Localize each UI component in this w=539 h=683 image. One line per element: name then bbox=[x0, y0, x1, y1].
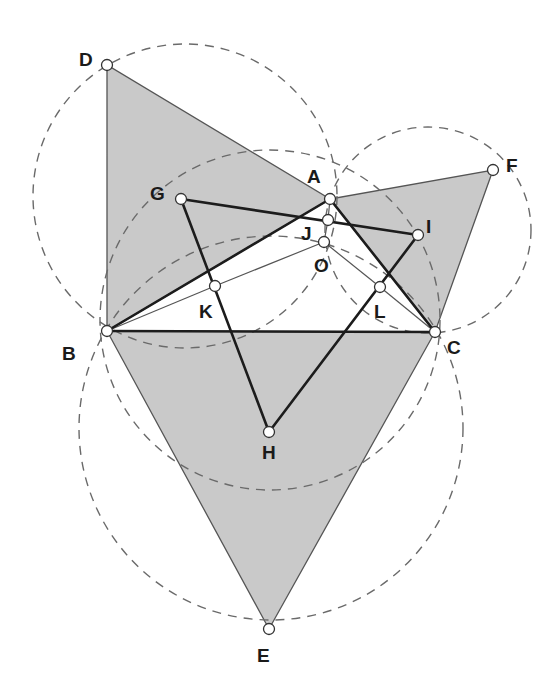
label-A: A bbox=[307, 166, 321, 187]
point-G bbox=[176, 194, 187, 205]
label-K: K bbox=[199, 301, 213, 322]
label-E: E bbox=[257, 645, 270, 666]
label-F: F bbox=[506, 155, 518, 176]
geometry-diagram: ABCDEFGHIJKLO bbox=[0, 0, 539, 683]
point-H bbox=[264, 427, 275, 438]
label-I: I bbox=[426, 216, 431, 237]
label-J: J bbox=[301, 223, 312, 244]
point-I bbox=[413, 230, 424, 241]
point-L bbox=[375, 282, 386, 293]
label-O: O bbox=[314, 255, 329, 276]
point-O bbox=[319, 237, 330, 248]
point-B bbox=[102, 326, 113, 337]
point-E bbox=[264, 624, 275, 635]
segment-BC bbox=[107, 331, 435, 332]
label-D: D bbox=[79, 49, 93, 70]
label-B: B bbox=[62, 343, 76, 364]
triangle-BCE bbox=[107, 331, 435, 629]
point-F bbox=[488, 165, 499, 176]
triangle-ACF bbox=[330, 170, 493, 332]
label-H: H bbox=[262, 442, 276, 463]
label-G: G bbox=[150, 183, 165, 204]
point-C bbox=[430, 327, 441, 338]
point-A bbox=[325, 194, 336, 205]
point-J bbox=[323, 215, 334, 226]
label-C: C bbox=[447, 337, 461, 358]
point-D bbox=[102, 60, 113, 71]
point-K bbox=[210, 281, 221, 292]
label-L: L bbox=[374, 301, 386, 322]
triangle-ABD bbox=[107, 65, 330, 331]
